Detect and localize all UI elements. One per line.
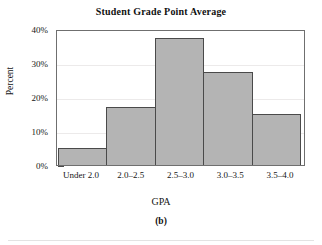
bar <box>252 114 301 165</box>
y-axis-tick-label: 10% <box>14 127 48 137</box>
bottom-divider <box>8 240 314 241</box>
chart-title: Student Grade Point Average <box>0 6 322 17</box>
figure-panel: Student Grade Point Average Percent 0%10… <box>0 0 322 245</box>
bar <box>155 38 204 166</box>
panel-caption: (b) <box>0 216 322 226</box>
y-axis-tick-labels: 0%10%20%30%40% <box>8 30 48 166</box>
bar <box>106 107 155 165</box>
x-axis-tick-label: 2.5–3.0 <box>156 170 206 180</box>
y-axis-tick-label: 30% <box>14 59 48 69</box>
x-axis-tick-label: 2.0–2.5 <box>106 170 156 180</box>
x-axis-tick-labels: Under 2.02.0–2.52.5–3.03.0–3.53.5–4.0 <box>56 170 305 180</box>
x-axis-tick-label: 3.5–4.0 <box>255 170 305 180</box>
plot-area <box>56 30 305 166</box>
x-axis-tick-label: Under 2.0 <box>56 170 106 180</box>
bar-series <box>57 31 304 165</box>
bar <box>58 148 107 165</box>
x-axis-title: GPA <box>0 196 322 207</box>
x-axis-tick-label: 3.0–3.5 <box>205 170 255 180</box>
y-axis-tick-label: 0% <box>14 161 48 171</box>
y-axis-tick-label: 40% <box>14 25 48 35</box>
y-axis-tick-label: 20% <box>14 93 48 103</box>
y-axis-tick <box>58 166 64 167</box>
bar <box>203 72 252 166</box>
